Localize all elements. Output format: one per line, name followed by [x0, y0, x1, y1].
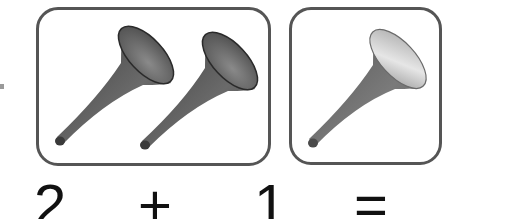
margin-mark: [0, 84, 4, 89]
group-a-frame: [36, 7, 271, 166]
horn-group-a: [39, 10, 274, 169]
horn-icon: [308, 20, 436, 147]
equals-sign: =: [354, 176, 388, 219]
count-a-label: 2: [34, 176, 66, 219]
count-b-label: 1: [254, 176, 286, 219]
plus-operator: +: [138, 176, 172, 219]
group-b-frame: [289, 7, 442, 165]
horn-group-b: [292, 10, 445, 168]
horn-icon: [140, 23, 267, 149]
